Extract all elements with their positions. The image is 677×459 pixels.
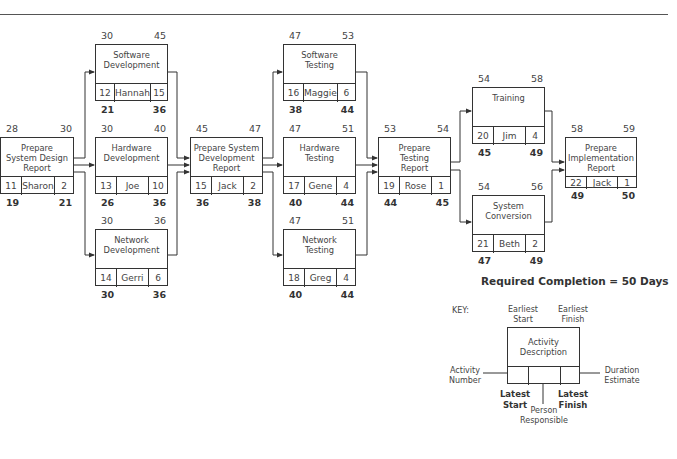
activity-number: 17 — [284, 177, 305, 195]
latest-start: 19 — [6, 197, 19, 208]
activity-detail-row: 17 Gene 4 — [284, 176, 355, 195]
latest-start: 40 — [289, 197, 302, 208]
earliest-finish: 40 — [154, 123, 166, 134]
person-responsible: Joe — [117, 177, 149, 195]
edge-12-15 — [168, 72, 189, 158]
activity-description: PrepareTestingReport — [379, 138, 450, 176]
person-responsible: Gerri — [117, 269, 149, 287]
earliest-finish: 54 — [437, 123, 449, 134]
key-activity-box: ActivityDescription — [507, 327, 580, 384]
latest-finish: 49 — [530, 147, 543, 158]
latest-start: 36 — [196, 197, 209, 208]
edge-16-19 — [356, 72, 377, 158]
latest-finish: 44 — [341, 197, 354, 208]
key-earliest-start: EarliestStart — [503, 305, 543, 325]
latest-finish: 49 — [530, 255, 543, 266]
latest-finish: 21 — [59, 197, 72, 208]
activity-node-14: 30 36 NetworkDevelopment 14 Gerri 6 30 3… — [95, 229, 168, 286]
duration-estimate: 2 — [244, 177, 262, 195]
earliest-start: 47 — [289, 215, 301, 226]
activity-description: SoftwareTesting — [284, 45, 355, 83]
activity-detail-row: 16 Maggie 6 — [284, 83, 355, 102]
edge-11-14 — [74, 172, 94, 255]
latest-start: 49 — [571, 190, 584, 201]
earliest-start: 30 — [101, 30, 113, 41]
activity-description: PrepareSystem DesignReport — [1, 138, 73, 176]
earliest-finish: 51 — [342, 123, 354, 134]
earliest-start: 45 — [196, 123, 208, 134]
activity-detail-row: 11 Sharon 2 — [1, 176, 73, 195]
activity-description: HardwareDevelopment — [96, 138, 167, 176]
edge-11-12 — [74, 72, 94, 158]
activity-description: PrepareImplementationReport — [566, 138, 636, 176]
earliest-start: 28 — [6, 123, 18, 134]
activity-detail-row: 19 Rose 1 — [379, 176, 450, 195]
activity-number: 15 — [191, 177, 212, 195]
activity-node-16: 47 53 SoftwareTesting 16 Maggie 6 38 44 — [283, 44, 356, 101]
edge-19-21 — [451, 170, 471, 222]
earliest-finish: 58 — [531, 73, 543, 84]
edge-20-22 — [545, 111, 564, 162]
activity-description: NetworkDevelopment — [96, 230, 167, 268]
duration-estimate: 1 — [432, 177, 450, 195]
latest-start: 47 — [478, 255, 491, 266]
activity-node-22: 58 59 PrepareImplementationReport 22 Jac… — [565, 137, 637, 188]
activity-number: 20 — [473, 127, 494, 145]
activity-node-12: 30 45 SoftwareDevelopment 12 Hannah 15 2… — [95, 44, 168, 101]
activity-description: Prepare SystemDevelopmentReport — [191, 138, 262, 176]
activity-box: SoftwareTesting 16 Maggie 6 — [283, 44, 356, 101]
activity-node-15: 45 47 Prepare SystemDevelopmentReport 15… — [190, 137, 263, 194]
latest-finish: 44 — [341, 104, 354, 115]
earliest-finish: 59 — [623, 123, 635, 134]
activity-detail-row: 18 Greg 4 — [284, 268, 355, 287]
activity-box: PrepareImplementationReport 22 Jack 1 — [565, 137, 637, 188]
activity-node-13: 30 40 HardwareDevelopment 13 Joe 10 26 3… — [95, 137, 168, 194]
activity-description: HardwareTesting — [284, 138, 355, 176]
duration-estimate: 4 — [337, 177, 355, 195]
latest-start: 26 — [101, 197, 114, 208]
activity-box: PrepareTestingReport 19 Rose 1 — [378, 137, 451, 194]
duration-estimate: 6 — [338, 84, 355, 102]
latest-finish: 36 — [153, 104, 166, 115]
earliest-start: 58 — [571, 123, 583, 134]
earliest-start: 30 — [101, 123, 113, 134]
key-person-responsible: PersonResponsible — [518, 406, 570, 426]
earliest-start: 53 — [384, 123, 396, 134]
activity-detail-row: 15 Jack 2 — [191, 176, 262, 195]
person-responsible: Jack — [212, 177, 244, 195]
activity-node-21: 54 56 SystemConversion 21 Beth 2 47 49 — [472, 195, 545, 252]
latest-finish: 50 — [622, 190, 635, 201]
latest-start: 21 — [101, 104, 114, 115]
latest-finish: 36 — [153, 197, 166, 208]
activity-detail-row: 14 Gerri 6 — [96, 268, 167, 287]
activity-box: SystemConversion 21 Beth 2 — [472, 195, 545, 252]
activity-node-11: 28 30 PrepareSystem DesignReport 11 Shar… — [0, 137, 74, 194]
person-responsible: Greg — [305, 269, 337, 287]
duration-estimate: 2 — [55, 177, 73, 195]
activity-description: NetworkTesting — [284, 230, 355, 268]
activity-detail-row: 22 Jack 1 — [566, 176, 636, 189]
activity-box: NetworkDevelopment 14 Gerri 6 — [95, 229, 168, 286]
edge-14-15 — [168, 172, 189, 255]
activity-number: 16 — [284, 84, 304, 102]
activity-description: SoftwareDevelopment — [96, 45, 167, 83]
edge-15-18 — [263, 172, 282, 255]
activity-detail-row: 21 Beth 2 — [473, 234, 544, 253]
latest-finish: 45 — [436, 197, 449, 208]
person-responsible: Rose — [400, 177, 432, 195]
duration-estimate: 4 — [337, 269, 355, 287]
latest-start: 38 — [289, 104, 302, 115]
latest-start: 44 — [384, 197, 397, 208]
activity-box: HardwareDevelopment 13 Joe 10 — [95, 137, 168, 194]
activity-number: 18 — [284, 269, 305, 287]
person-responsible: Beth — [494, 235, 526, 253]
duration-estimate: 2 — [526, 235, 544, 253]
activity-node-20: 54 58 Training 20 Jim 4 45 49 — [472, 87, 545, 144]
activity-box: Prepare SystemDevelopmentReport 15 Jack … — [190, 137, 263, 194]
person-responsible: Sharon — [22, 177, 55, 195]
activity-box: Training 20 Jim 4 — [472, 87, 545, 144]
activity-number: 22 — [566, 177, 587, 189]
duration-estimate: 10 — [149, 177, 167, 195]
latest-start: 45 — [478, 147, 491, 158]
activity-description: Training — [473, 88, 544, 126]
